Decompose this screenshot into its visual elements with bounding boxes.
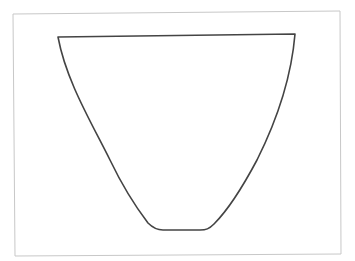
diagram-canvas [0, 0, 355, 261]
background [0, 0, 355, 261]
